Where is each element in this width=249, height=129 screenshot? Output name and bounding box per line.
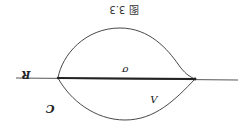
left-endpoint [57, 77, 59, 79]
arc-label-lambda: Λ [150, 94, 158, 105]
segment-sigma [58, 78, 195, 79]
segment-label-sigma: σ [120, 65, 128, 76]
axis-label-r: R [21, 68, 31, 81]
contour-diagram: 图 3.3 R σ Λ C [0, 0, 249, 129]
lower-arc [58, 78, 195, 120]
figure-caption: 图 3.3 [109, 4, 138, 15]
contour-label-c: C [45, 102, 54, 115]
right-endpoint [194, 78, 197, 81]
